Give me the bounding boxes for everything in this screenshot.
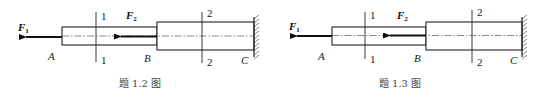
point-label-c: C — [241, 54, 249, 66]
figure-caption: 题 1.2 图 — [119, 78, 161, 89]
point-label-c: C — [510, 54, 518, 66]
point-label-a: A — [47, 50, 55, 62]
section-1-top-label: 1 — [370, 9, 376, 21]
point-label-b: B — [414, 52, 421, 64]
section-2-bottom-label: 2 — [477, 56, 483, 68]
figure-caption: 题 1.3 图 — [379, 78, 421, 89]
force-label-f2: F2 — [125, 9, 137, 23]
point-label-a: A — [317, 50, 325, 62]
force-label-f1: F1 — [17, 21, 29, 35]
section-2-top-label: 2 — [207, 7, 213, 19]
figure-1-3: F1 F2 A B C 1 1 2 2 题 1.3 图 — [288, 6, 527, 89]
wall-hatching — [522, 15, 527, 59]
force-label-f2: F2 — [396, 9, 408, 23]
section-1-top-label: 1 — [101, 10, 107, 22]
bar-segment-bc — [426, 22, 522, 50]
section-1-bottom-label: 1 — [101, 54, 107, 66]
wall-hatching — [254, 15, 259, 59]
diagram-canvas: F1 F2 A B C 1 1 2 2 题 1.2 图 — [0, 0, 544, 103]
force-label-f1: F1 — [288, 20, 300, 34]
section-1-bottom-label: 1 — [370, 53, 376, 65]
section-2-top-label: 2 — [477, 6, 483, 18]
section-2-bottom-label: 2 — [207, 56, 213, 68]
figure-1-2: F1 F2 A B C 1 1 2 2 题 1.2 图 — [17, 7, 259, 89]
point-label-b: B — [144, 52, 151, 64]
